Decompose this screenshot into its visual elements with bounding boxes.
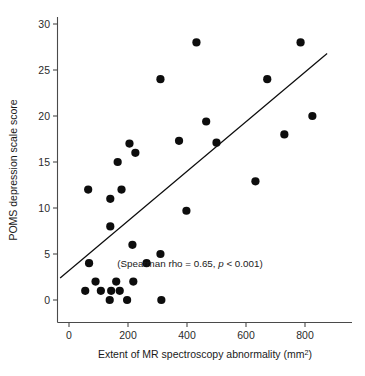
data-point	[156, 250, 164, 258]
scatter-plot-figure: 0510152025300200400600800 Extent of MR s…	[0, 0, 365, 376]
y-tick-label-25: 25	[38, 64, 50, 76]
data-point	[106, 296, 114, 304]
axes-layer	[58, 17, 353, 323]
data-point	[123, 296, 131, 304]
data-point	[129, 278, 137, 286]
data-point	[251, 177, 259, 185]
x-tick-label-200: 200	[119, 329, 137, 341]
regression-line	[60, 53, 327, 277]
data-point	[117, 186, 125, 194]
data-point	[107, 287, 115, 295]
data-point	[128, 241, 136, 249]
data-point	[116, 287, 124, 295]
data-point	[112, 278, 120, 286]
data-point	[263, 75, 271, 83]
data-point	[175, 137, 183, 145]
y-tick-label-10: 10	[38, 202, 50, 214]
axis-labels-layer: Extent of MR spectroscopy abnormality (m…	[7, 99, 312, 360]
ticks-layer: 0510152025300200400600800	[38, 18, 314, 341]
data-point	[97, 287, 105, 295]
data-point	[125, 140, 133, 148]
x-tick-label-0: 0	[66, 329, 72, 341]
data-point	[212, 139, 220, 147]
data-point	[192, 38, 200, 46]
y-tick-label-20: 20	[38, 110, 50, 122]
data-point	[280, 130, 288, 138]
data-point	[131, 149, 139, 157]
data-point	[296, 38, 304, 46]
spearman-annotation: (Spearman rho = 0.65, p < 0.001)	[117, 258, 262, 269]
regression-line-path	[60, 53, 327, 277]
data-point	[156, 75, 164, 83]
x-tick-label-400: 400	[178, 329, 196, 341]
y-tick-label-0: 0	[44, 294, 50, 306]
data-point	[81, 287, 89, 295]
y-tick-label-5: 5	[44, 248, 50, 260]
data-point	[106, 195, 114, 203]
x-axis-title: Extent of MR spectroscopy abnormality (m…	[98, 348, 312, 360]
data-point	[106, 222, 114, 230]
data-point	[157, 296, 165, 304]
y-tick-label-30: 30	[38, 18, 50, 30]
x-tick-label-600: 600	[237, 329, 255, 341]
data-point	[84, 186, 92, 194]
data-point	[202, 117, 210, 125]
x-tick-label-800: 800	[296, 329, 314, 341]
plot-canvas: 0510152025300200400600800 Extent of MR s…	[0, 0, 365, 376]
data-point	[85, 259, 93, 267]
data-point	[91, 278, 99, 286]
data-point	[182, 207, 190, 215]
annotations-layer: (Spearman rho = 0.65, p < 0.001)	[117, 258, 262, 269]
data-point	[308, 112, 316, 120]
y-tick-label-15: 15	[38, 156, 50, 168]
y-axis-title: POMS depression scale score	[7, 99, 19, 240]
data-point	[114, 158, 122, 166]
